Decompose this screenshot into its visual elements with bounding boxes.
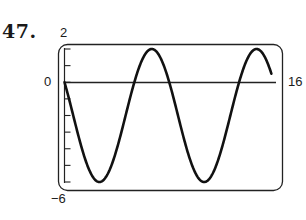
sine-curve (65, 49, 272, 182)
y-axis-ticks (65, 49, 71, 182)
viewing-window-frame (59, 45, 283, 191)
sine-graph (0, 0, 306, 220)
